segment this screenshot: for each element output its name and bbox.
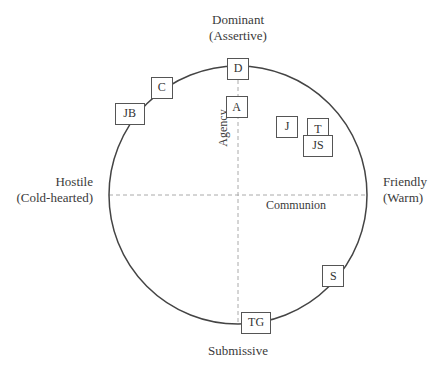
point-box-jb: JB <box>115 103 145 125</box>
pole-bottom-line-1: Submissive <box>188 343 288 359</box>
pole-left-line-1: Hostile <box>0 174 93 190</box>
point-label: J <box>285 119 290 134</box>
point-label: TG <box>248 315 264 330</box>
point-box-j: J <box>276 116 298 138</box>
pole-top-label: Dominant (Assertive) <box>188 12 288 44</box>
communion-axis-label: Communion <box>266 197 326 213</box>
point-label: D <box>234 61 243 76</box>
point-box-d: D <box>227 58 249 80</box>
point-box-c: C <box>151 77 173 99</box>
pole-top-line-2: (Assertive) <box>188 28 288 44</box>
point-label: C <box>158 80 166 95</box>
point-label: JB <box>123 106 136 121</box>
pole-right-label: Friendly (Warm) <box>383 174 446 206</box>
point-box-s: S <box>322 265 344 287</box>
pole-left-line-2: (Cold-hearted) <box>0 190 93 206</box>
point-label: JS <box>312 138 323 153</box>
point-label: A <box>232 100 241 115</box>
pole-right-line-1: Friendly <box>383 174 446 190</box>
pole-bottom-label: Submissive <box>188 343 288 359</box>
point-box-a: A <box>226 96 248 118</box>
point-label: S <box>330 269 337 284</box>
point-box-js: JS <box>303 135 333 157</box>
point-box-tg: TG <box>241 312 271 334</box>
pole-top-line-1: Dominant <box>188 12 288 28</box>
pole-right-line-2: (Warm) <box>383 190 446 206</box>
pole-left-label: Hostile (Cold-hearted) <box>0 174 93 206</box>
